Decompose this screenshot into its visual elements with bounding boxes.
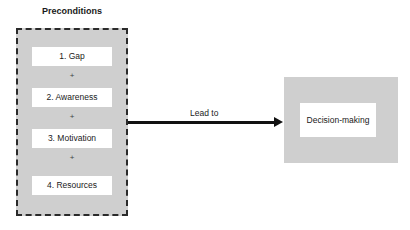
plus-separator: +	[32, 111, 112, 123]
arrow-label: Lead to	[190, 108, 218, 118]
arrow-line	[128, 121, 276, 124]
outcome-decision-making: Decision-making	[300, 103, 376, 137]
plus-separator: +	[32, 70, 112, 82]
precondition-resources: 4. Resources	[32, 176, 112, 195]
plus-separator: +	[32, 152, 112, 164]
arrow-head-icon	[274, 117, 283, 127]
precondition-gap: 1. Gap	[32, 47, 112, 66]
precondition-awareness: 2. Awareness	[32, 88, 112, 107]
preconditions-title: Preconditions	[16, 6, 128, 16]
precondition-motivation: 3. Motivation	[32, 129, 112, 148]
